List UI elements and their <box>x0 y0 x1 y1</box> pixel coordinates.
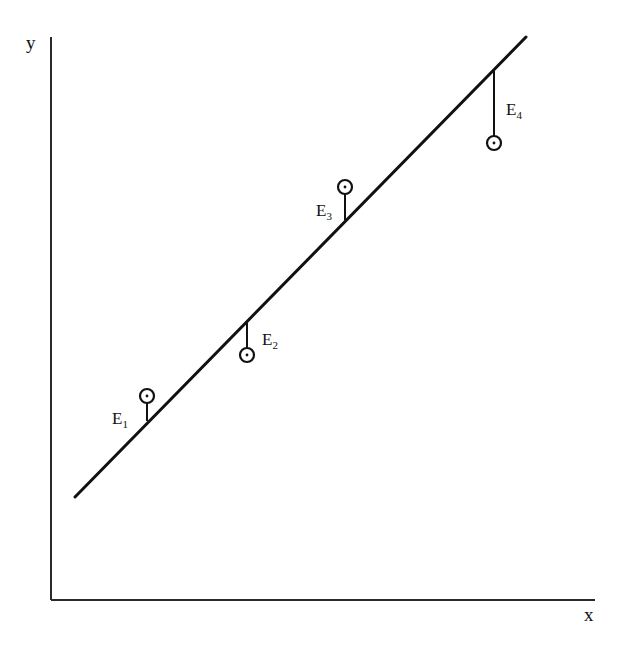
regression-line <box>75 37 526 497</box>
x-axis-label: x <box>584 604 594 625</box>
residual-label: E4 <box>506 100 522 121</box>
residual-e2: E2 <box>240 323 278 362</box>
y-axis-label: y <box>26 32 36 53</box>
residual-label: E1 <box>112 409 128 430</box>
regression-residuals-figure: y x E1 E2 E3 E4 <box>0 0 620 653</box>
data-point-center-dot <box>146 395 149 398</box>
data-point-center-dot <box>493 142 496 145</box>
data-point-center-dot <box>344 186 347 189</box>
residual-label: E2 <box>262 330 278 351</box>
residual-e4: E4 <box>487 69 522 150</box>
data-point-center-dot <box>246 354 249 357</box>
residual-label: E3 <box>316 201 332 222</box>
axes: y x <box>26 32 595 625</box>
residual-e3: E3 <box>316 180 352 222</box>
